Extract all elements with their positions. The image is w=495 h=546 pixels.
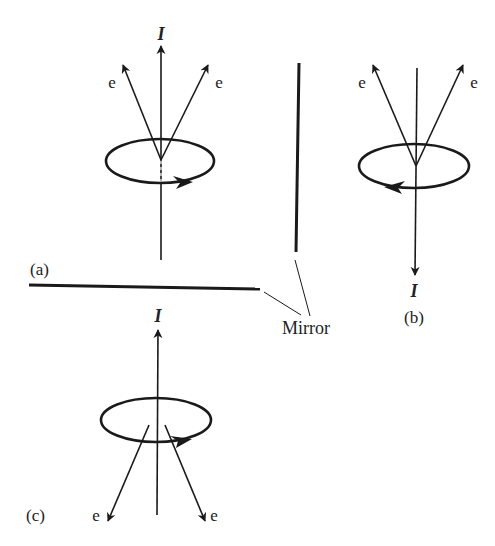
electron-label-left-a: e: [108, 73, 116, 92]
mirror-pointer-vertical: [295, 260, 310, 316]
current-axis-c: [157, 330, 158, 515]
mirror-vertical: [296, 63, 299, 252]
electron-label-right-a: e: [215, 73, 223, 92]
mirror-horizontal: [29, 285, 260, 289]
spin-loop-a: [106, 139, 214, 183]
panel-label-a: (a): [30, 260, 49, 279]
electron-label-left-b: e: [358, 73, 366, 92]
mirror-label: Mirror: [282, 318, 330, 338]
spin-loop-b: [359, 144, 469, 188]
mirror-pointer-horizontal: [264, 292, 301, 315]
electron-label-right-b: e: [470, 73, 478, 92]
electron-arrow-left-b: [373, 65, 416, 166]
parity-mirror-diagram: I e e (a) e e I (b) Mirror I e e (c): [0, 0, 495, 546]
electron-label-right-c: e: [210, 506, 218, 525]
current-label-b: I: [409, 281, 418, 301]
electron-arrow-left-a: [123, 65, 161, 160]
current-label-a: I: [156, 24, 165, 44]
panel-label-c: (c): [26, 506, 45, 525]
electron-label-left-c: e: [92, 506, 100, 525]
panel-a: [106, 46, 214, 260]
current-label-c: I: [153, 306, 162, 326]
spin-loop-c: [101, 398, 211, 442]
current-axis-b: [415, 68, 417, 275]
panel-b: [359, 65, 469, 275]
panel-label-b: (b): [404, 308, 424, 327]
panel-c: [101, 330, 211, 521]
